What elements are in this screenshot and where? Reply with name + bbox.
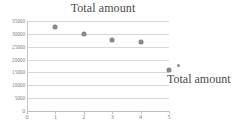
x-axis-line	[27, 111, 169, 112]
y-tick-label: 5000	[1, 95, 25, 101]
plot-area	[27, 21, 169, 111]
data-point	[110, 38, 114, 42]
data-point	[53, 25, 57, 29]
x-tick-label: 1	[48, 114, 62, 120]
scatter-chart: Total amount 350003000025000200001500010…	[0, 0, 246, 133]
gridline	[27, 98, 169, 99]
gridline	[27, 72, 169, 73]
x-tick-label: 3	[105, 114, 119, 120]
x-tick-label: 2	[77, 114, 91, 120]
y-tick-label: 10000	[1, 82, 25, 88]
data-point	[82, 32, 86, 36]
x-tick-label: 5	[162, 114, 176, 120]
y-tick-label: 15000	[1, 69, 25, 75]
data-point	[139, 40, 143, 44]
y-tick-label: 25000	[1, 44, 25, 50]
legend: Total amount	[167, 69, 230, 87]
y-axis-tick-labels: 35000300002500020000150001000050000	[0, 21, 25, 111]
gridline	[27, 47, 169, 48]
y-tick-label: 35000	[1, 18, 25, 24]
gridline	[27, 85, 169, 86]
y-tick-label: 20000	[1, 57, 25, 63]
legend-marker-icon	[177, 64, 180, 67]
gridline	[27, 60, 169, 61]
legend-label-total-amount: Total amount	[167, 72, 230, 86]
gridline	[27, 34, 169, 35]
y-tick-label: 30000	[1, 31, 25, 37]
chart-title: Total amount	[53, 1, 153, 16]
x-tick-label: 0	[20, 114, 34, 120]
gridline	[27, 21, 169, 22]
x-tick-label: 4	[134, 114, 148, 120]
y-axis-line	[27, 21, 28, 112]
